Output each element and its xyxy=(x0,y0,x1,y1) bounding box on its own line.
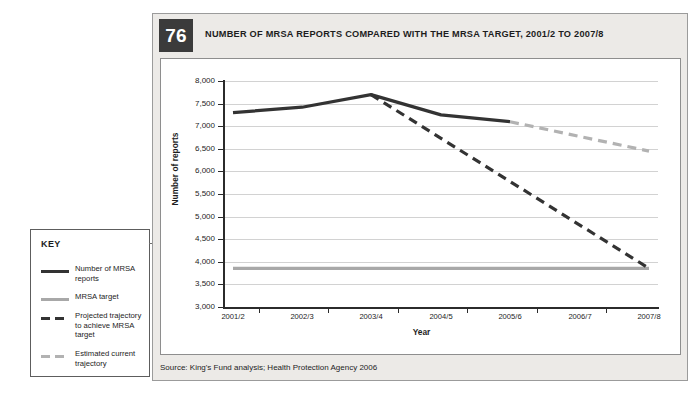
x-tick-label: 2002/3 xyxy=(274,312,330,321)
legend-label: Projected trajectory to achieve MRSA tar… xyxy=(75,311,147,340)
legend-swatch-solid-dark-icon xyxy=(41,270,69,273)
x-tick-label: 2005/6 xyxy=(482,312,538,321)
y-tick-mark xyxy=(218,104,223,105)
figure-panel: 76 NUMBER OF MRSA REPORTS COMPARED WITH … xyxy=(152,13,688,381)
y-tick-label: 7,500 xyxy=(169,99,215,108)
series-estimated-trajectory xyxy=(510,122,649,151)
x-axis-line xyxy=(223,307,659,309)
y-tick-label: 4,500 xyxy=(169,234,215,243)
chart-card: 8,000 7,500 7,000 6,500 6,000 5,500 5,00… xyxy=(160,58,681,355)
figure-header: 76 NUMBER OF MRSA REPORTS COMPARED WITH … xyxy=(153,14,687,58)
y-tick-mark xyxy=(218,126,223,127)
y-tick-mark xyxy=(218,149,223,150)
legend-label: Number of MRSA reports xyxy=(75,264,147,283)
legend-heading: KEY xyxy=(41,239,61,249)
y-tick-mark xyxy=(218,171,223,172)
x-tick-label: 2003/4 xyxy=(343,312,399,321)
source-note: Source: King's Fund analysis; Health Pro… xyxy=(160,359,681,375)
y-tick-mark xyxy=(218,239,223,240)
x-tick-label: 2006/7 xyxy=(552,312,608,321)
y-tick-label: 3,000 xyxy=(169,302,215,311)
legend-label: Estimated current trajectory xyxy=(75,349,147,368)
y-tick-mark xyxy=(218,194,223,195)
y-tick-mark xyxy=(218,262,223,263)
legend-swatch-solid-grey-icon xyxy=(41,298,69,301)
legend-swatch-dashed-dark-icon xyxy=(41,317,69,320)
x-tick-label: 2004/5 xyxy=(413,312,469,321)
x-tick-label: 2001/2 xyxy=(205,312,261,321)
y-axis-title: Number of reports xyxy=(170,109,180,229)
y-tick-mark xyxy=(218,81,223,82)
y-axis-line xyxy=(223,80,225,308)
y-tick-label: 4,000 xyxy=(169,257,215,266)
x-tick-label: 2007/8 xyxy=(621,312,677,321)
chart-series-layer xyxy=(224,81,658,307)
figure-title: NUMBER OF MRSA REPORTS COMPARED WITH THE… xyxy=(205,29,679,39)
y-tick-mark xyxy=(218,284,223,285)
chart-legend: KEY Number of MRSA reports MRSA target P… xyxy=(30,229,150,377)
y-tick-label: 3,500 xyxy=(169,279,215,288)
screenshot-root: KEY Number of MRSA reports MRSA target P… xyxy=(0,0,698,394)
series-mrsa-reports xyxy=(233,95,510,122)
figure-number-badge: 76 xyxy=(159,19,193,52)
plot-area xyxy=(224,81,658,307)
legend-swatch-dashed-grey-icon xyxy=(41,355,69,358)
legend-label: MRSA target xyxy=(75,292,147,302)
y-tick-mark xyxy=(218,217,223,218)
y-tick-label: 8,000 xyxy=(169,76,215,85)
y-tick-mark xyxy=(218,307,223,308)
x-axis-title: Year xyxy=(161,327,682,337)
